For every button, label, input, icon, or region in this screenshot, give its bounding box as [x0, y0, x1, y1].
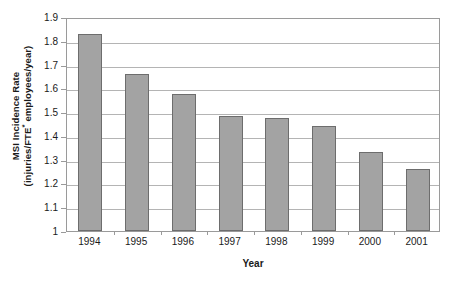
- x-tick-mark: [254, 231, 255, 235]
- x-tick-mark: [161, 231, 162, 235]
- y-tick-label: 1.3: [44, 156, 58, 166]
- bar: [219, 116, 243, 231]
- x-tick-label: 1997: [219, 236, 241, 248]
- bar: [125, 74, 149, 231]
- y-tick-label: 1.7: [44, 61, 58, 71]
- bar-group: [207, 19, 254, 231]
- bar: [312, 126, 336, 231]
- bar-group: [348, 19, 395, 231]
- bar-group: [114, 19, 161, 231]
- bar-group: [394, 19, 441, 231]
- x-tick-mark: [394, 231, 395, 235]
- bar: [406, 169, 430, 231]
- bar-group: [67, 19, 114, 231]
- y-tick-label: 1.6: [44, 84, 58, 94]
- y-tick-label: 1.4: [44, 132, 58, 142]
- x-tick-label: 1996: [172, 236, 194, 248]
- plot-area: [66, 18, 440, 232]
- y-tick-label: 1: [52, 227, 58, 237]
- bar: [172, 94, 196, 231]
- x-tick-label: 2000: [359, 236, 381, 248]
- bar-chart: MSI Incidence Rate (injuries/FTE* employ…: [0, 0, 456, 287]
- x-tick-mark: [301, 231, 302, 235]
- x-tick-mark: [348, 231, 349, 235]
- y-axis-ticks: 1.91.81.71.61.51.41.31.21.11: [0, 0, 66, 250]
- x-tick-label: 1998: [265, 236, 287, 248]
- x-tick-mark: [207, 231, 208, 235]
- bar-group: [254, 19, 301, 231]
- bar: [265, 118, 289, 231]
- y-tick-label: 1.9: [44, 13, 58, 23]
- bar: [359, 152, 383, 231]
- x-axis-ticks: 19941995199619971998199920002001: [66, 236, 440, 252]
- y-tick-label: 1.1: [44, 203, 58, 213]
- bar-group: [301, 19, 348, 231]
- x-tick-label: 1999: [312, 236, 334, 248]
- bar: [78, 34, 102, 231]
- x-tick-label: 1994: [78, 236, 100, 248]
- bar-group: [161, 19, 208, 231]
- y-tick-label: 1.2: [44, 179, 58, 189]
- y-tick-label: 1.8: [44, 37, 58, 47]
- x-tick-label: 2001: [406, 236, 428, 248]
- x-tick-label: 1995: [125, 236, 147, 248]
- x-tick-mark: [114, 231, 115, 235]
- y-tick-label: 1.5: [44, 108, 58, 118]
- y-tick-mark: [61, 232, 66, 233]
- x-axis-title: Year: [66, 258, 440, 270]
